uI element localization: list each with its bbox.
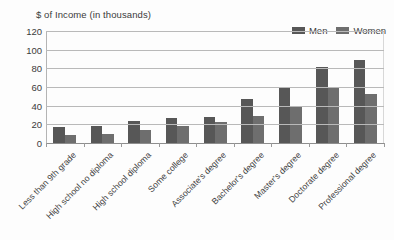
- bar-men: [354, 60, 366, 143]
- gridline-20: [46, 124, 384, 125]
- chart-title: $ of Income (in thousands): [36, 9, 151, 20]
- bar-men: [91, 126, 103, 143]
- x-axis-tick-mark: [121, 143, 122, 147]
- y-axis-tick-label: 60: [2, 82, 42, 93]
- y-axis-tick-label: 40: [2, 100, 42, 111]
- y-axis-tick-label: 20: [2, 119, 42, 130]
- y-axis-tick-label: 0: [2, 138, 42, 149]
- bar-men: [53, 127, 65, 143]
- x-axis-tick-mark: [384, 143, 385, 147]
- y-axis-tick-label: 100: [2, 44, 42, 55]
- bar-women: [65, 135, 77, 143]
- bar-women: [253, 116, 265, 143]
- y-axis-tick-label: 80: [2, 63, 42, 74]
- gridline-60: [46, 87, 384, 88]
- gridline-40: [46, 106, 384, 107]
- plot-area: [46, 31, 384, 143]
- x-axis-tick-mark: [46, 143, 47, 147]
- x-axis-tick-mark: [196, 143, 197, 147]
- gridline-100: [46, 50, 384, 51]
- x-axis-tick-mark: [271, 143, 272, 147]
- bar-women: [102, 134, 114, 143]
- bar-men: [279, 87, 291, 143]
- income-by-education-bar-chart: $ of Income (in thousands) MenWomen 0204…: [0, 0, 394, 240]
- bar-women: [328, 87, 340, 143]
- bar-women: [365, 94, 377, 143]
- x-axis-tick-mark: [84, 143, 85, 147]
- x-axis-tick-mark: [159, 143, 160, 147]
- x-axis-category-label: High school no diploma: [44, 150, 115, 221]
- x-axis-tick-mark: [234, 143, 235, 147]
- gridline-0: [46, 143, 384, 144]
- gridline-120: [46, 31, 384, 32]
- bar-men: [166, 118, 178, 143]
- bar-men: [204, 117, 216, 143]
- gridline-80: [46, 68, 384, 69]
- bar-women: [140, 130, 152, 143]
- x-axis-tick-mark: [309, 143, 310, 147]
- bar-women: [177, 126, 189, 143]
- y-axis-tick-label: 120: [2, 26, 42, 37]
- x-axis-tick-mark: [346, 143, 347, 147]
